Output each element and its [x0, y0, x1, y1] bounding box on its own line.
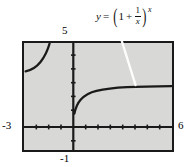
equation-open-paren: ( — [113, 9, 117, 23]
equation-body: 1 + 1 x — [118, 6, 141, 26]
equation-one: 1 — [118, 10, 124, 22]
equation-close-paren: ) — [142, 9, 146, 23]
callout-leader-line — [121, 39, 136, 86]
y-axis — [71, 43, 76, 150]
equation-callout: y = ( 1 + 1 x ) x — [96, 6, 152, 26]
equation-plus-sign: + — [126, 10, 132, 22]
fraction-numerator: 1 — [134, 6, 141, 15]
curve-left-branch — [26, 44, 50, 72]
graph-figure: 5 -1 -3 6 y = ( 1 + 1 x ) x — [0, 0, 196, 167]
x-min-label: -3 — [2, 120, 11, 131]
equation-lhs: y — [96, 10, 101, 22]
fraction-denominator: x — [135, 17, 141, 26]
y-min-label: -1 — [60, 153, 69, 164]
equation-exponent: x — [148, 5, 152, 14]
equation-fraction: 1 x — [134, 6, 141, 26]
y-max-label: 5 — [62, 25, 68, 36]
curve-right-branch — [74, 86, 171, 114]
x-axis — [24, 125, 172, 130]
x-max-label: 6 — [178, 120, 184, 131]
equation-equals-sign: = — [103, 10, 109, 22]
